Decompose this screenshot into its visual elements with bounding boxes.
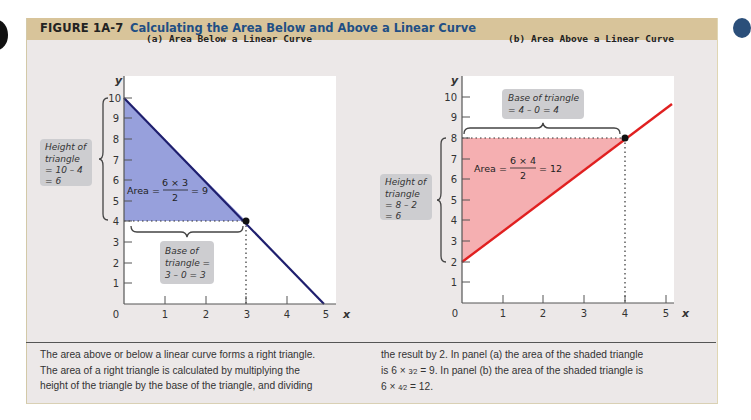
panel-b-origin: 0 <box>452 308 458 319</box>
caption-line: 6 × 4⁄2 = 12. <box>381 379 711 396</box>
panel-a-height-text-4: = 6 <box>45 176 61 186</box>
panel-a-height-brace <box>99 98 108 220</box>
panel-b-height-text-4: = 6 <box>385 211 401 221</box>
panel-a-ytick-9: 9 <box>113 113 119 124</box>
caption-line: the result by 2. In panel (a) the area o… <box>381 347 711 363</box>
caption-text: is 6 × <box>381 365 408 376</box>
panel-a-ytick-4: 4 <box>113 216 119 227</box>
panel-a-height-text-3: = 10 – 4 <box>45 165 83 175</box>
panel-b-height-text-2: triangle <box>385 189 420 199</box>
panel-a-area-denominator: 2 <box>172 192 178 203</box>
panel-a-area-result: = 9 <box>191 185 208 196</box>
panel-b-ytick-4: 4 <box>451 215 457 226</box>
panel-b-xtick-5: 5 <box>663 308 669 319</box>
panel-a-ytick-8: 8 <box>113 134 119 145</box>
caption-text: = 12. <box>407 381 433 392</box>
panel-a-height-text-2: triangle <box>45 154 80 164</box>
panel-b-xtick-1: 1 <box>500 308 506 319</box>
panel-a-xtick-5: 5 <box>323 309 329 320</box>
caption-text: = 9. In panel (b) the area of the shaded… <box>417 365 643 376</box>
panel-b-ytick-1: 1 <box>451 277 457 288</box>
panel-b-base-text-1: Base of triangle <box>508 93 579 103</box>
caption-line: is 6 × 3⁄2 = 9. In panel (b) the area of… <box>381 363 711 380</box>
panel-a-base-text-1: Base of <box>165 246 200 256</box>
panel-a-ytick-3: 3 <box>113 237 119 248</box>
panel-b-height-brace <box>437 138 446 262</box>
panel-a-ytick-10: 10 <box>108 93 121 104</box>
panel-b-ytick-3: 3 <box>451 236 457 247</box>
panel-b-area-prefix: Area = <box>474 163 507 174</box>
panel-b-ytick-5: 5 <box>451 195 457 206</box>
panel-a-xtick-1: 1 <box>162 309 168 320</box>
panel-b-ytick-2: 2 <box>451 257 457 268</box>
panel-a-point <box>243 218 250 225</box>
panel-b-xtick-3: 3 <box>581 308 587 319</box>
panel-b-height-text-1: Height of <box>385 177 428 187</box>
caption-line: The area of a right triangle is calculat… <box>40 363 370 379</box>
panel-a-ytick-5: 5 <box>113 196 119 207</box>
panel-a-xtick-4: 4 <box>284 309 290 320</box>
panel-a-y-label: y <box>115 74 123 87</box>
panel-b-ytick-10: 10 <box>444 92 457 103</box>
panel-b-height-text-3: = 8 – 2 <box>385 200 417 210</box>
panel-b-y-label: y <box>451 74 459 87</box>
panel-a-xtick-2: 2 <box>203 309 209 320</box>
panel-a-area-numerator: 6 × 3 <box>162 177 188 188</box>
caption-fraction: 4⁄2 <box>398 384 407 391</box>
panel-b-ytick-7: 7 <box>451 154 457 165</box>
caption-line: The area above or below a linear curve f… <box>40 347 370 363</box>
panel-a-base-text-3: 3 – 0 = 3 <box>165 270 206 280</box>
panel-b-ytick-6: 6 <box>451 174 457 185</box>
panel-b-x-label: x <box>681 307 690 320</box>
panel-b-area-result: = 12 <box>539 163 562 174</box>
panel-b-area-denominator: 2 <box>520 170 526 181</box>
panel-a-ytick-2: 2 <box>113 258 119 269</box>
panel-b-base-text-2: = 4 – 0 = 4 <box>508 105 559 115</box>
caption-divider <box>26 342 716 343</box>
panel-a-xtick-3: 3 <box>244 309 250 320</box>
panel-a-ytick-7: 7 <box>113 155 119 166</box>
caption-column-1: The area above or below a linear curve f… <box>40 347 370 394</box>
caption-column-2: the result by 2. In panel (a) the area o… <box>381 347 711 396</box>
panel-a-origin: 0 <box>113 309 119 320</box>
panel-b-ytick-8: 8 <box>451 133 457 144</box>
panel-a-chart: 1 2 3 4 5 6 7 8 9 10 y 0 1 2 3 4 5 x Hei… <box>40 74 351 321</box>
panel-b-chart: 1 2 3 4 5 6 7 8 9 10 y 0 1 2 3 4 5 x Bas… <box>380 74 690 320</box>
panel-a-height-text-1: Height of <box>45 142 88 152</box>
panel-a-ytick-6: 6 <box>113 175 119 186</box>
panel-b-xtick-4: 4 <box>622 308 628 319</box>
caption-line: height of the triangle by the base of th… <box>40 378 370 394</box>
panel-b-xtick-2: 2 <box>540 308 546 319</box>
panel-b-area-numerator: 6 × 4 <box>510 155 536 166</box>
panel-a-ytick-1: 1 <box>113 278 119 289</box>
panel-b-point <box>622 135 629 142</box>
panel-a-area-prefix: Area = <box>127 185 160 196</box>
panel-a-x-label: x <box>342 308 351 321</box>
panel-a-base-text-2: triangle = <box>165 258 210 268</box>
caption-text: 6 × <box>381 381 398 392</box>
panel-b-ytick-9: 9 <box>451 112 457 123</box>
